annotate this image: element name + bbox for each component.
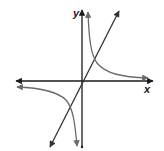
coordinate-graph: y x <box>0 0 164 151</box>
line-through-origin <box>50 11 119 147</box>
hyperbola-branch-q1 <box>88 12 148 78</box>
hyperbola-branch-q3 <box>17 87 77 146</box>
x-axis-label: x <box>143 83 151 95</box>
y-axis-bottom-end <box>81 146 83 148</box>
y-axis-label: y <box>72 7 80 19</box>
